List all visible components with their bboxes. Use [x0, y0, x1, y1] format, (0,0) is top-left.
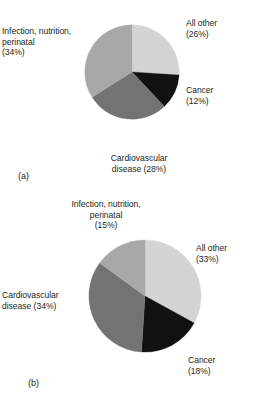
- panel-tag-a: (a): [18, 171, 29, 182]
- panel-tag-b: (b): [28, 378, 39, 389]
- pie-a-label-cardiovascular: Cardiovascular disease (28%): [86, 153, 192, 174]
- pie-chart-a: [84, 24, 180, 120]
- pie-b-label-cardiovascular: Cardiovascular disease (34%): [2, 290, 86, 311]
- figure-two-pie-charts: Infection, nutrition, perinatal (34%) Al…: [0, 0, 259, 405]
- pie-b-slices: [89, 240, 201, 352]
- pie-a-slices: [85, 25, 179, 119]
- pie-a-slice-all-other: [132, 25, 179, 75]
- pie-b-label-all-other: All other (33%): [196, 243, 258, 264]
- pie-chart-panel-a: Infection, nutrition, perinatal (34%) Al…: [0, 0, 259, 200]
- pie-chart-b: [88, 239, 202, 353]
- pie-a-label-all-other: All other (26%): [186, 18, 256, 39]
- pie-a-label-cancer: Cancer (12%): [186, 85, 256, 106]
- pie-a-label-infection: Infection, nutrition, perinatal (34%): [2, 26, 94, 58]
- pie-b-label-cancer: Cancer (18%): [188, 355, 254, 376]
- pie-b-label-infection: Infection, nutrition, perinatal (15%): [54, 199, 158, 231]
